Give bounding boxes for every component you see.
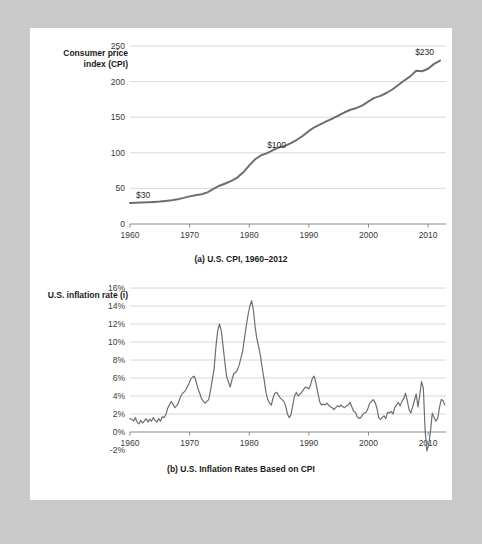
y-tick-label: 8% (113, 355, 126, 365)
x-tick-label: 1990 (299, 438, 318, 448)
cpi-chart: Consumer price index (CPI) 0501001502002… (30, 28, 452, 278)
y-tick-label: 4% (113, 391, 126, 401)
y-tick-label: 14% (108, 301, 125, 311)
y-tick-label: 200 (111, 77, 125, 87)
value-annotation: $230 (415, 47, 434, 57)
x-tick-label: 1960 (121, 438, 140, 448)
value-annotation: $30 (136, 190, 150, 200)
inflation-chart: U.S. inflation rate (i) -2%0%2%4%6%8%10%… (30, 278, 452, 488)
cpi-caption: (a) U.S. CPI, 1960–2012 (30, 254, 452, 264)
inflation-y-axis-title: U.S. inflation rate (i) (38, 290, 128, 301)
cpi-y-axis-title: Consumer price index (CPI) (40, 48, 128, 70)
y-tick-label: 6% (113, 373, 126, 383)
y-tick-label: 100 (111, 148, 125, 158)
y-tick-label: 2% (113, 409, 126, 419)
x-tick-label: 2000 (359, 230, 378, 240)
value-annotation: $100 (267, 140, 286, 150)
x-tick-label: 2010 (419, 230, 438, 240)
x-tick-label: 1980 (240, 230, 259, 240)
y-tick-label: 0 (120, 219, 125, 229)
x-tick-label: 1960 (121, 230, 140, 240)
x-tick-label: 1990 (299, 230, 318, 240)
x-tick-label: 1970 (180, 438, 199, 448)
series-line (130, 301, 445, 451)
x-tick-label: 1970 (180, 230, 199, 240)
y-tick-label: 10% (108, 337, 125, 347)
x-tick-label: 1980 (240, 438, 259, 448)
y-tick-label: 0% (113, 427, 126, 437)
y-tick-label: 150 (111, 112, 125, 122)
y-tick-label: 50 (116, 183, 126, 193)
inflation-plot-area: -2%0%2%4%6%8%10%12%14%16%196019701980199… (30, 278, 452, 460)
figure-card: Consumer price index (CPI) 0501001502002… (30, 28, 452, 500)
x-tick-label: 2000 (359, 438, 378, 448)
inflation-caption: (b) U.S. Inflation Rates Based on CPI (30, 464, 452, 474)
y-tick-label: 12% (108, 319, 125, 329)
